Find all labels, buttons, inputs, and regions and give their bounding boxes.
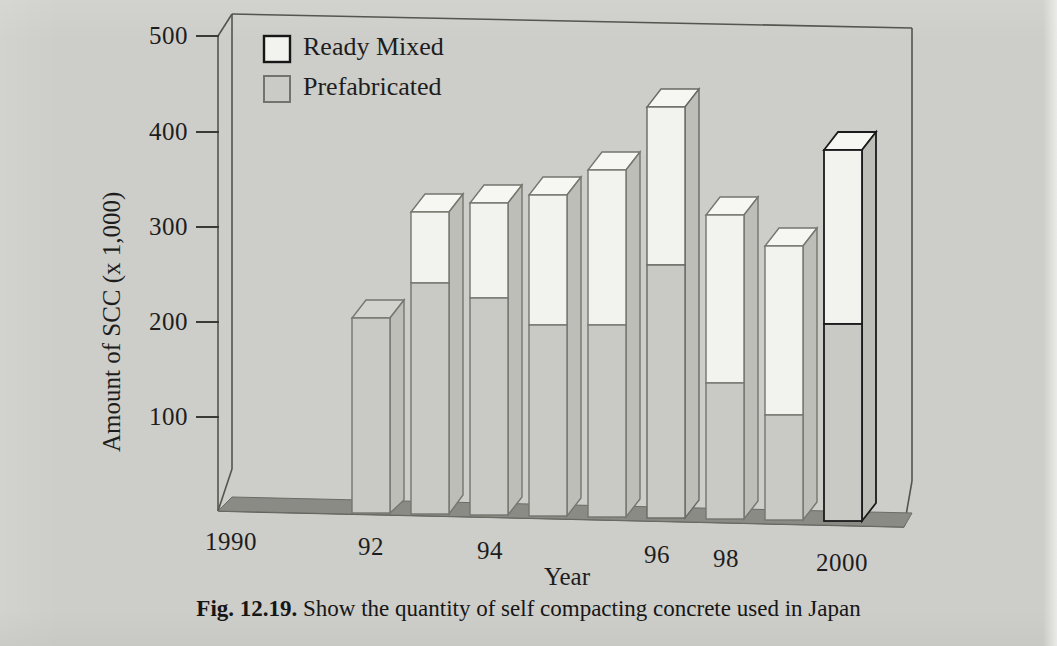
legend-swatches [264, 36, 290, 102]
x-tick-98: 98 [676, 545, 776, 573]
bar-2000[interactable] [824, 132, 876, 521]
bar-1999[interactable] [765, 228, 817, 520]
x-tick-1990: 1990 [181, 528, 281, 556]
bar-1998[interactable] [706, 197, 758, 519]
x-tick-2000: 2000 [792, 549, 892, 577]
x-axis-title: Year [517, 563, 617, 591]
y-axis-ticks [196, 36, 219, 417]
figure-caption-text: Show the quantity of self compacting con… [303, 596, 861, 621]
bar-1994[interactable] [470, 185, 522, 515]
bar-1995[interactable] [529, 177, 581, 516]
bar-1997[interactable] [647, 89, 699, 518]
legend-label-ready-mixed[interactable]: Ready Mixed [303, 32, 444, 62]
legend-swatch-prefabricated[interactable] [264, 76, 290, 102]
bars-group [352, 89, 876, 521]
legend-label-prefabricated[interactable]: Prefabricated [303, 72, 442, 102]
bar-1993[interactable] [411, 194, 463, 514]
x-tick-92: 92 [321, 533, 421, 561]
figure-caption: Fig. 12.19. Show the quantity of self co… [0, 596, 1057, 622]
chart-figure: 500 400 300 200 100 Amount of SCC (x 1,0… [0, 0, 1057, 646]
y-axis-title: Amount of SCC (x 1,000) [98, 192, 126, 452]
y-tick-400: 400 [110, 118, 188, 146]
y-tick-500: 500 [110, 22, 188, 50]
bar-1996[interactable] [588, 152, 640, 517]
bar-1992[interactable] [352, 300, 404, 513]
figure-number: Fig. 12.19. [196, 596, 297, 621]
x-tick-94: 94 [440, 537, 540, 565]
scanned-page: 500 400 300 200 100 Amount of SCC (x 1,0… [0, 0, 1057, 646]
legend-swatch-ready-mixed[interactable] [264, 36, 290, 62]
